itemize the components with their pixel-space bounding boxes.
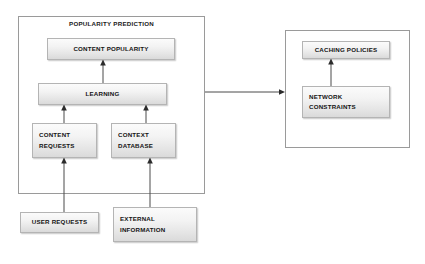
block-diagram-canvas: POPULARITY PREDICTION — [0, 0, 425, 264]
node-content-requests-line-1: CONTENT — [39, 130, 70, 140]
node-content-requests-line-2: REQUESTS — [39, 141, 75, 151]
node-content-requests[interactable]: CONTENT REQUESTS — [32, 123, 97, 158]
node-context-database-line-2: DATABASE — [118, 141, 153, 151]
node-learning-line-1: LEARNING — [86, 89, 120, 99]
node-network-constraints[interactable]: NETWORK CONSTRAINTS — [302, 86, 390, 118]
node-network-constraints-line-1: NETWORK — [309, 92, 342, 102]
node-external-information[interactable]: EXTERNAL INFORMATION — [113, 207, 197, 242]
node-external-information-line-2: INFORMATION — [120, 225, 165, 235]
node-learning[interactable]: LEARNING — [38, 83, 167, 105]
edge-popularity-prediction-to-network-side — [205, 89, 285, 95]
node-user-requests[interactable]: USER REQUESTS — [20, 212, 99, 233]
node-user-requests-line-1: USER REQUESTS — [32, 217, 88, 227]
node-external-information-line-1: EXTERNAL — [120, 214, 155, 224]
node-context-database[interactable]: CONTEXT DATABASE — [111, 123, 176, 158]
node-context-database-line-1: CONTEXT — [118, 130, 149, 140]
node-network-constraints-line-2: CONSTRAINTS — [309, 102, 356, 112]
node-content-popularity-line-1: CONTENT POPULARITY — [73, 44, 148, 54]
node-content-popularity[interactable]: CONTENT POPULARITY — [47, 38, 175, 60]
node-caching-policies-line-1: CACHING POLICIES — [315, 45, 378, 55]
popularity-prediction-title: POPULARITY PREDICTION — [18, 20, 205, 27]
node-caching-policies[interactable]: CACHING POLICIES — [302, 41, 390, 59]
